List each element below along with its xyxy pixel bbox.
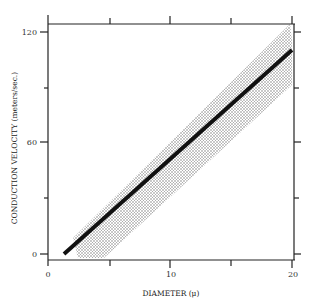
chart-canvas: 120 60 0 0 10 20 DIAMETER (μ) CONDUCTION… (0, 0, 320, 307)
y-axis-left-ticks (40, 32, 48, 254)
y-tick-120: 120 (22, 28, 37, 37)
y-axis-right-ticks (294, 32, 301, 254)
x-axis-title: DIAMETER (μ) (143, 289, 200, 298)
x-tick-20: 20 (288, 270, 298, 279)
x-tick-10: 10 (166, 270, 176, 279)
velocity-line (64, 50, 292, 254)
y-tick-60: 60 (27, 138, 37, 147)
y-axis-title: CONDUCTION VELOCITY (meters/sec.) (10, 72, 19, 224)
x-axis-top-ticks (110, 16, 292, 24)
plot-frame (48, 15, 295, 260)
x-tick-0: 0 (45, 270, 50, 279)
x-axis-bottom-ticks (48, 260, 292, 268)
y-tick-0: 0 (32, 250, 37, 259)
range-band (73, 24, 292, 258)
